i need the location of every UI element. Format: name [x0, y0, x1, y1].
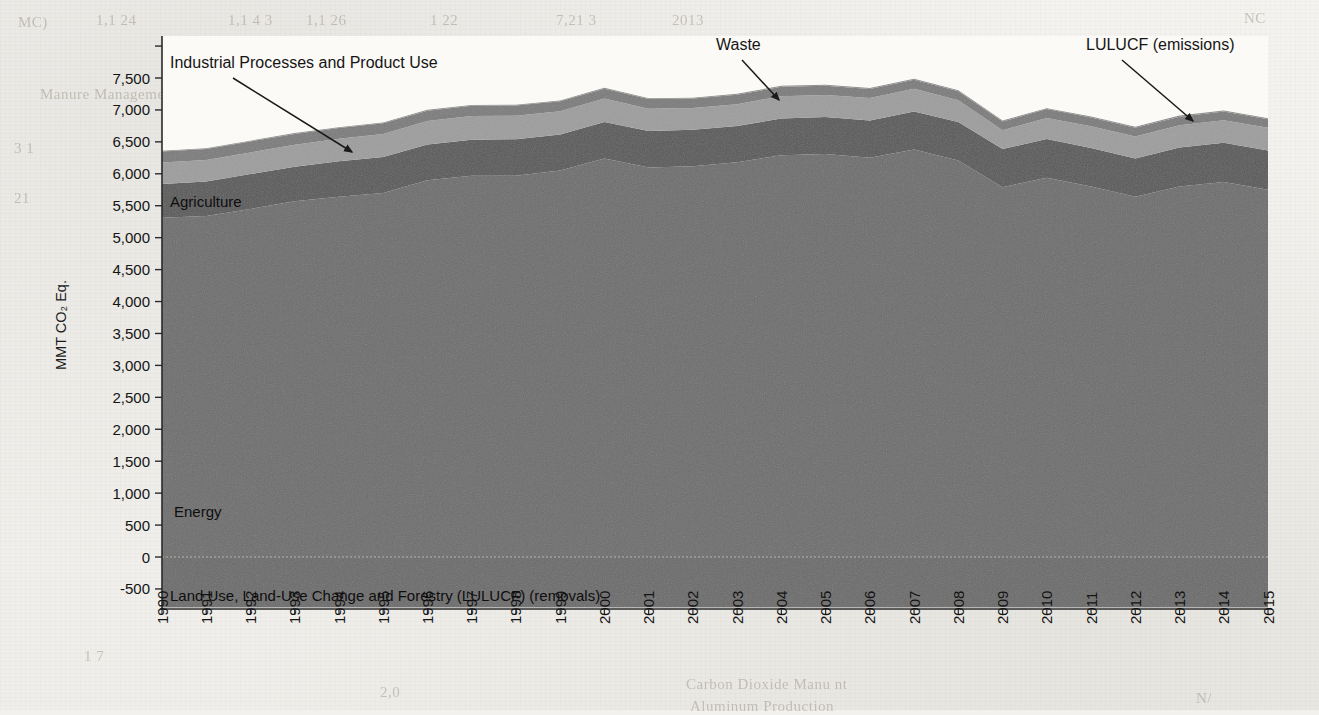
- y-tick-label: 1,500: [112, 453, 150, 470]
- annotation-label-industrial-processes: Industrial Processes and Product Use: [170, 54, 438, 71]
- x-tick-label-2004: 2004: [773, 591, 790, 624]
- x-tick-label-2011: 2011: [1083, 592, 1100, 624]
- inline-label-agriculture: Agriculture: [170, 193, 242, 210]
- x-tick-label-2013: 2013: [1171, 591, 1188, 624]
- x-tick-label-2001: 2001: [640, 591, 657, 624]
- stacked-area-series-group: [162, 79, 1268, 608]
- y-tick-label: 1,000: [112, 485, 150, 502]
- annotation-label-lulucf-emissions: LULUCF (emissions): [1086, 36, 1234, 53]
- y-tick-label: 5,500: [112, 197, 150, 214]
- y-tick-label: -500: [120, 580, 150, 597]
- y-axis-title: MMT CO₂ Eq.: [53, 280, 69, 370]
- inline-label-energy: Energy: [174, 503, 222, 520]
- y-tick-label: 6,500: [112, 133, 150, 150]
- y-tick-label: 3,000: [112, 357, 150, 374]
- y-tick-label: 500: [125, 517, 150, 534]
- y-tick-label: 7,000: [112, 101, 150, 118]
- x-tick-label-2005: 2005: [817, 591, 834, 624]
- x-tick-label-2002: 2002: [684, 591, 701, 624]
- inline-label-lulucf-removals: Land Use, Land-Use Change and Forestry (…: [170, 587, 600, 604]
- y-tick-label: 6,000: [112, 165, 150, 182]
- x-tick-label-1990: 1990: [154, 591, 171, 624]
- y-tick-label: 2,000: [112, 421, 150, 438]
- y-tick-label: 0: [142, 549, 150, 566]
- x-tick-label-2014: 2014: [1215, 591, 1232, 624]
- x-tick-label-2007: 2007: [906, 591, 923, 624]
- y-tick-label: 7,500: [112, 70, 150, 87]
- y-tick-label: 3,500: [112, 325, 150, 342]
- x-tick-label-2008: 2008: [950, 591, 967, 624]
- area-series-energy: [162, 150, 1268, 557]
- y-tick-label: 4,500: [112, 261, 150, 278]
- y-axis-ticks: 7,5007,0006,5006,0005,5005,0004,5004,000…: [112, 46, 162, 597]
- y-tick-label: 5,000: [112, 229, 150, 246]
- y-tick-label: 4,000: [112, 293, 150, 310]
- x-tick-label-2003: 2003: [729, 591, 746, 624]
- x-tick-label-2010: 2010: [1038, 591, 1055, 624]
- x-tick-label-2009: 2009: [994, 591, 1011, 624]
- annotation-label-waste: Waste: [716, 36, 761, 53]
- x-tick-label-2015: 2015: [1260, 591, 1277, 624]
- x-tick-label-2006: 2006: [861, 591, 878, 624]
- y-tick-label: 2,500: [112, 389, 150, 406]
- x-tick-label-2012: 2012: [1127, 591, 1144, 624]
